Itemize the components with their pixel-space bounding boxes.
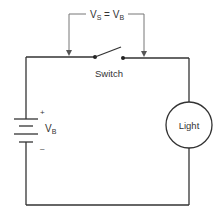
circuit-diagram: Switch VS = VB + – VB Light <box>0 0 219 215</box>
voltage-measurement: VS = VB <box>66 9 147 57</box>
arrow-right-icon <box>141 51 147 57</box>
switch-label: Switch <box>95 68 123 79</box>
lead-left <box>69 14 86 51</box>
lead-right <box>128 14 144 52</box>
switch-contact-dot <box>121 56 125 60</box>
battery-voltage-label: VB <box>45 123 57 135</box>
light-bulb: Light <box>166 102 212 148</box>
battery-positive-sign: + <box>40 108 45 117</box>
switch: Switch <box>93 47 125 79</box>
battery: + – VB <box>14 108 57 153</box>
switch-blade <box>95 47 121 57</box>
arrow-left-icon <box>66 50 72 56</box>
voltage-equation-label: VS = VB <box>90 9 124 21</box>
battery-negative-sign: – <box>40 144 45 153</box>
light-label: Light <box>179 120 200 131</box>
